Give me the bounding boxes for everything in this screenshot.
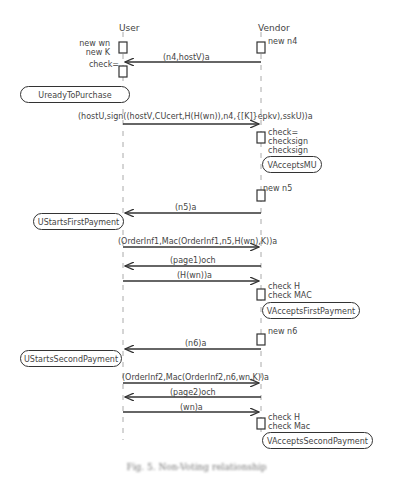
participant-vendor: Vendor (258, 24, 290, 33)
vendor-action: check H (268, 282, 300, 291)
vendor-action: check= (268, 128, 298, 137)
message-label: (H(wn))a (177, 271, 212, 280)
vendor-action: checksign (268, 146, 308, 155)
state-vendor-accepts-mu: VAcceptsMU (262, 156, 322, 173)
vendor-action: new n6 (268, 327, 297, 336)
state-user-starts-second-payment: UStartsSecondPayment (20, 350, 122, 367)
state-vendor-accepts-second-payment: VAcceptsSecondPayment (262, 432, 373, 449)
user-action: new K (86, 48, 110, 57)
user-activation-box (119, 66, 127, 77)
vendor-action: check H (268, 413, 300, 422)
vendor-activation-box (257, 334, 265, 345)
message-label: (n5)a (175, 203, 196, 212)
state-user-ready-to-purchase: UreadyToPurchase (20, 86, 130, 103)
message-label: (hostU,sign((hostV,CUcert,H(H(wn)),n4,{[… (78, 112, 313, 121)
message-label: (page2)och (170, 388, 216, 397)
message-label: (OrderInf2,Mac(OrderInf2,n6,wn,K))a (122, 373, 269, 382)
vendor-action: check MAC (268, 291, 312, 300)
vendor-action: new n4 (268, 37, 297, 46)
user-action: new wn (79, 39, 110, 48)
vendor-action: check Mac (268, 422, 310, 431)
vendor-action: checksign (268, 137, 308, 146)
message-label: (n4,hostV)a (163, 53, 210, 62)
vendor-action: new n5 (263, 184, 292, 193)
vendor-activation-box (257, 289, 265, 300)
figure-caption: Fig. 5. Non-Voting relationship (0, 462, 393, 472)
user-action: check= (89, 60, 119, 69)
message-label: (wn)a (180, 403, 203, 412)
vendor-activation-box (257, 42, 265, 53)
participant-user: User (119, 24, 140, 33)
message-label: (n6)a (185, 339, 206, 348)
state-vendor-accepts-first-payment: VAcceptsFirstPayment (262, 302, 360, 319)
state-user-starts-first-payment: UStartsFirstPayment (33, 213, 124, 230)
message-label: (page1)och (170, 256, 216, 265)
user-activation-box (119, 42, 127, 53)
vendor-activation-box (257, 132, 265, 143)
vendor-activation-box (257, 418, 265, 429)
message-label: (OrderInf1,Mac(OrderInf1,n5,H(wn),K))a (118, 237, 277, 246)
